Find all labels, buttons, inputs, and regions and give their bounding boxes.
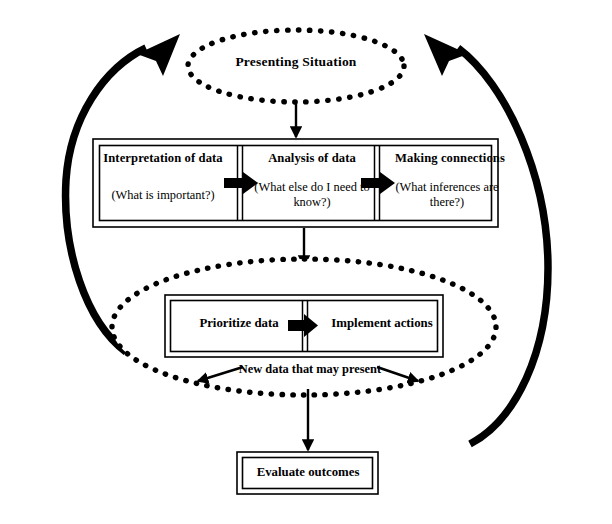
right-feedback-arc	[424, 34, 548, 444]
cell-title-making-connections: Making connections	[388, 151, 512, 166]
clinical-reasoning-diagram: Presenting Situation Interpretation of d…	[0, 0, 612, 524]
cell-title-analysis: Analysis of data	[252, 151, 372, 166]
evaluate-outcomes-label: Evaluate outcomes	[246, 465, 370, 480]
cell-question-making-connections: (What inferences are there?)	[388, 180, 506, 209]
action-cell-implement-actions: Implement actions	[318, 316, 446, 331]
cell-question-interpretation: (What is important?)	[96, 188, 230, 203]
new-data-caption: New data that may present	[215, 362, 405, 377]
action-cell-prioritize-data: Prioritize data	[178, 316, 300, 331]
cell-question-analysis: (What else do I need to know?)	[252, 180, 372, 209]
cell-title-interpretation: Interpretation of data	[100, 151, 226, 166]
diagram-canvas	[0, 0, 612, 524]
presenting-situation-label: Presenting Situation	[196, 54, 396, 70]
